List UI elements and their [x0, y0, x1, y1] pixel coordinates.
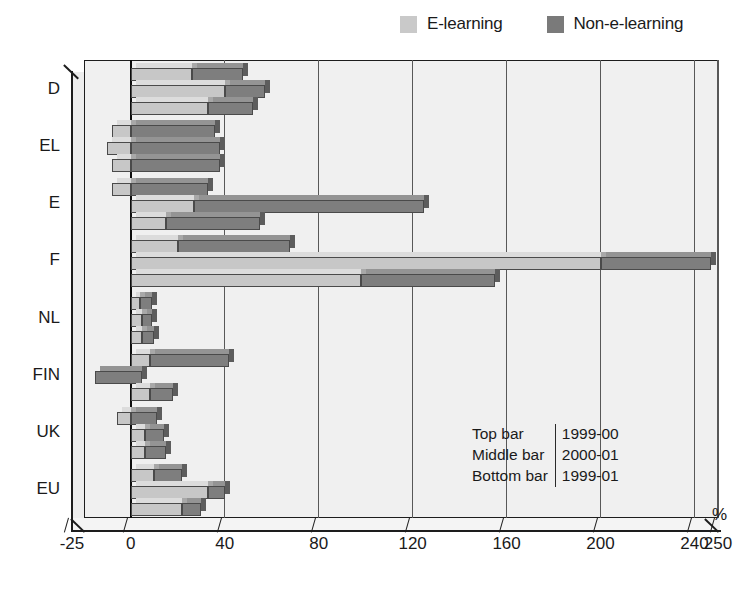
note-position-label: Top bar — [466, 424, 555, 445]
bar-side-face — [225, 481, 230, 494]
bar-side-face — [152, 292, 157, 305]
bar-nl-2-e-learning — [131, 331, 143, 344]
bar-side-face — [208, 178, 213, 191]
bar-outline — [166, 217, 260, 230]
bar-uk-2-non-e-learning — [145, 446, 166, 459]
bar-side-face — [243, 63, 248, 76]
bar-side-face — [164, 424, 169, 437]
bar-side-face — [220, 137, 225, 150]
x-axis-tick-40: 40 — [195, 534, 255, 554]
note-row: Bottom bar1999-01 — [466, 466, 626, 487]
bar-fin-2-e-learning — [131, 388, 150, 401]
bar-side-face — [157, 407, 162, 420]
bar-outline — [117, 412, 131, 425]
bar-outline — [601, 257, 711, 270]
bar-outline — [150, 354, 230, 367]
bar-position-note-table: Top bar1999-00Middle bar2000-01Bottom ba… — [466, 424, 626, 487]
bar-outline — [112, 183, 131, 196]
note-position-label: Bottom bar — [466, 466, 555, 487]
bar-eu-1-non-e-learning — [208, 486, 224, 499]
bar-e-0-e-learning — [112, 183, 131, 196]
bar-outline — [150, 388, 173, 401]
bar-side-face — [173, 383, 178, 396]
x-axis-tick-200: 200 — [571, 534, 631, 554]
x-axis-tick-160: 160 — [477, 534, 537, 554]
x-axis-tick-120: 120 — [383, 534, 443, 554]
bar-outline — [208, 486, 224, 499]
bar-side-face — [265, 80, 270, 93]
bar-el-2-e-learning — [112, 159, 131, 172]
bar-side-face — [142, 366, 147, 379]
bar-outline — [208, 102, 253, 115]
bar-outline — [112, 159, 131, 172]
bar-side-face — [229, 349, 234, 362]
bar-outline — [131, 446, 145, 459]
bar-side-face — [166, 441, 171, 454]
x-axis-tick-80: 80 — [289, 534, 349, 554]
bar-outline — [131, 503, 183, 516]
y-axis-label-f: F — [0, 250, 60, 270]
bar-side-face — [182, 464, 187, 477]
bar-side-face — [711, 252, 716, 265]
note-period-value: 2000-01 — [555, 445, 625, 466]
note-row: Top bar1999-00 — [466, 424, 626, 445]
bar-f-2-non-e-learning — [361, 274, 495, 287]
bar-side-face — [260, 212, 265, 225]
bar-e-2-non-e-learning — [166, 217, 260, 230]
bar-nl-2-non-e-learning — [142, 331, 154, 344]
bar-f-2-e-learning — [131, 274, 361, 287]
bar-uk-2-e-learning — [131, 446, 145, 459]
bar-side-face — [424, 195, 429, 208]
x-axis-tick-0: 0 — [101, 534, 161, 554]
bar-uk-0-e-learning — [117, 412, 131, 425]
bar-side-face — [290, 235, 295, 248]
bar-eu-2-e-learning — [131, 503, 183, 516]
bar-outline — [361, 274, 495, 287]
y-axis-label-fin: FIN — [0, 365, 60, 385]
bar-d-2-e-learning — [131, 102, 209, 115]
y-axis-label-e: E — [0, 193, 60, 213]
bar-outline — [142, 331, 154, 344]
bar-outline — [182, 503, 201, 516]
y-axis-label-el: EL — [0, 136, 60, 156]
bar-d-2-non-e-learning — [208, 102, 253, 115]
bar-el-2-non-e-learning — [131, 159, 220, 172]
plot-area: DELEFNLFINUKEU -2504080120160200240250 %… — [0, 0, 748, 593]
bar-side-face — [152, 309, 157, 322]
y-axis-label-nl: NL — [0, 308, 60, 328]
note-period-value: 1999-00 — [555, 424, 625, 445]
bar-outline — [145, 446, 166, 459]
bar-outline — [131, 102, 209, 115]
bar-side-face — [215, 120, 220, 133]
note-period-value: 1999-01 — [555, 466, 625, 487]
bar-eu-2-non-e-learning — [182, 503, 201, 516]
y-axis-label-uk: UK — [0, 422, 60, 442]
bar-outline — [131, 159, 220, 172]
bar-side-face — [253, 97, 258, 110]
x-axis-tick--25: -25 — [42, 534, 102, 554]
x-axis-tick-250: 250 — [688, 534, 748, 554]
bar-side-face — [220, 154, 225, 167]
note-position-label: Middle bar — [466, 445, 555, 466]
bar-fin-2-non-e-learning — [150, 388, 173, 401]
bar-side-face — [201, 498, 206, 511]
bar-outline — [131, 388, 150, 401]
x-axis-unit-label: % — [712, 505, 727, 525]
bar-outline — [131, 274, 361, 287]
bar-f-1-non-e-learning — [601, 257, 711, 270]
chart-root: E-learning Non-e-learning DELEFNLFINUKEU… — [0, 0, 748, 593]
bar-outline — [131, 331, 143, 344]
bars-layer — [0, 0, 748, 593]
note-row: Middle bar2000-01 — [466, 445, 626, 466]
y-axis-label-d: D — [0, 79, 60, 99]
y-axis-label-eu: EU — [0, 479, 60, 499]
bar-fin-0-non-e-learning — [150, 354, 230, 367]
bar-e-2-e-learning — [131, 217, 166, 230]
bar-side-face — [154, 326, 159, 339]
bar-outline — [131, 217, 166, 230]
bar-side-face — [495, 269, 500, 282]
